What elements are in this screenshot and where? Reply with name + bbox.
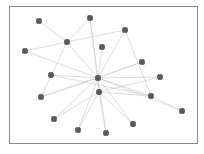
graph-node[interactable] (49, 73, 54, 78)
graph-node[interactable] (88, 16, 93, 21)
graph-node[interactable] (97, 90, 102, 95)
graph-node[interactable] (158, 75, 163, 80)
graph-edge (67, 30, 125, 42)
network-graph (0, 0, 204, 154)
graph-edge (98, 30, 125, 78)
graph-node[interactable] (140, 60, 145, 65)
graph-node[interactable] (149, 94, 154, 99)
graph-node[interactable] (23, 49, 28, 54)
graph-edge (54, 92, 99, 119)
graph-edge (54, 78, 98, 119)
graph-node[interactable] (96, 76, 101, 81)
graph-edge (98, 77, 160, 78)
graph-node[interactable] (180, 109, 185, 114)
graph-edge (78, 78, 98, 130)
graph-node[interactable] (76, 128, 81, 133)
graph-edge (78, 92, 99, 130)
graph-edge (98, 47, 102, 78)
graph-edge (25, 51, 98, 78)
graph-edge (67, 18, 90, 42)
graph-edge (151, 96, 182, 111)
graph-edge (99, 77, 160, 92)
graph-edge (125, 30, 151, 96)
graph-node[interactable] (131, 122, 136, 127)
graph-edge (99, 92, 106, 133)
graph-edge (41, 78, 98, 97)
graph-edge (98, 78, 151, 96)
graph-edge (25, 42, 67, 51)
graph-node[interactable] (100, 45, 105, 50)
graph-node[interactable] (104, 131, 109, 136)
graph-node[interactable] (52, 117, 57, 122)
graph-node[interactable] (37, 19, 42, 24)
graph-node[interactable] (123, 28, 128, 33)
graph-edge (41, 42, 67, 97)
graph-node[interactable] (65, 40, 70, 45)
graph-node[interactable] (39, 95, 44, 100)
graph-edge (39, 21, 67, 42)
